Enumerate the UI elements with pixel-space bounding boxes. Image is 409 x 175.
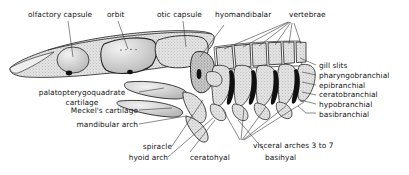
label-spiracle: spiracle	[112, 142, 172, 152]
label-meckels-cartilage: Meckel's cartilage	[18, 106, 138, 116]
label-palatopterygoquadrate-line1: palatopterygoquadrate	[39, 88, 126, 97]
label-orbit: orbit	[107, 10, 124, 20]
label-hyoid-arch: hyoid arch	[100, 153, 168, 163]
anatomical-figure: olfactory capsule orbit otic capsule hyo…	[0, 0, 409, 175]
label-otic-capsule: otic capsule	[157, 10, 202, 20]
label-basibranchial: basibranchial	[319, 110, 369, 120]
branchial-basket	[206, 64, 315, 120]
label-basihyal: basihyal	[265, 153, 296, 163]
label-visceral-arches: visceral arches 3 to 7	[253, 141, 333, 151]
label-hypobranchial: hypobranchial	[319, 100, 372, 110]
label-palatopterygoquadrate-cartilage: palatopterygoquadrate cartilage	[26, 88, 138, 107]
label-olfactory-capsule: olfactory capsule	[28, 10, 92, 20]
label-vertebrae: vertebrae	[289, 10, 326, 20]
label-ceratohyal: ceratohyal	[190, 153, 230, 163]
label-pharyngobranchial: pharyngobranchial	[319, 71, 389, 81]
label-ceratobranchial: ceratobranchial	[319, 90, 378, 100]
label-hyomandibalar: hyomandibalar	[215, 10, 271, 20]
label-gill-slits: gill slits	[319, 61, 347, 71]
label-mandibular-arch: mandibular arch	[30, 120, 138, 130]
